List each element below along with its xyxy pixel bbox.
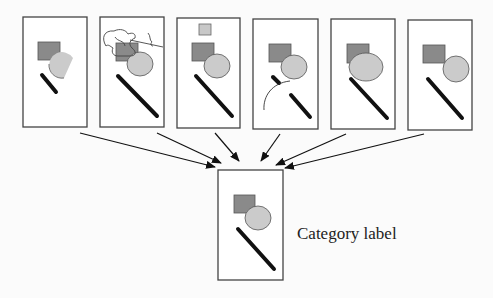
diagram-canvas bbox=[0, 0, 493, 298]
circle-shape bbox=[245, 206, 271, 230]
arrow-6 bbox=[285, 134, 424, 168]
input-panel-1 bbox=[23, 17, 87, 127]
input-panel-5 bbox=[331, 19, 395, 129]
arrow-1 bbox=[80, 133, 215, 167]
arrow-3 bbox=[215, 133, 239, 161]
arrow-5 bbox=[276, 134, 346, 165]
output-panel bbox=[218, 170, 283, 280]
circle-shape bbox=[281, 55, 307, 79]
circle-shape bbox=[204, 54, 230, 78]
input-panel-2 bbox=[100, 17, 164, 127]
input-panel-3 bbox=[177, 18, 240, 128]
arrows bbox=[80, 133, 424, 168]
square-shape bbox=[423, 45, 445, 63]
input-panel-6 bbox=[408, 20, 472, 130]
input-panel-4 bbox=[253, 19, 318, 129]
arrow-4 bbox=[261, 134, 280, 161]
circle-shape bbox=[349, 53, 383, 81]
arrow-2 bbox=[157, 133, 221, 163]
small-square-shape bbox=[199, 24, 211, 35]
category-label: Category label bbox=[297, 224, 397, 244]
circle-shape bbox=[443, 56, 469, 82]
